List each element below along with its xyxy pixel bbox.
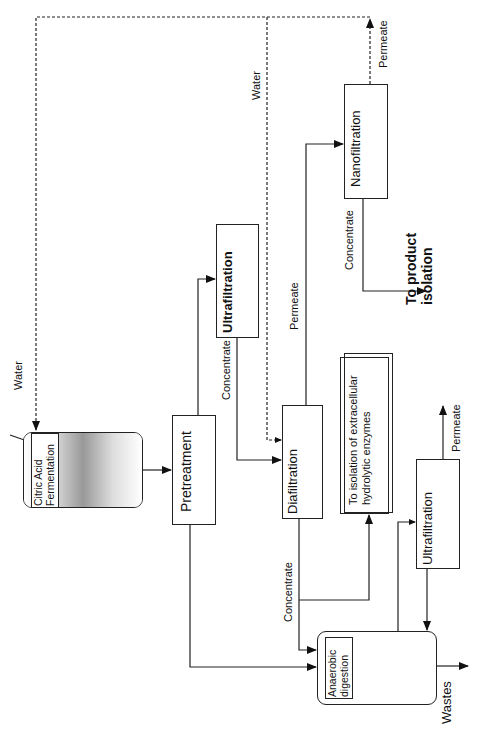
permeate-label-dia: Permeate — [288, 282, 301, 330]
concentrate-label-dia: Concentrate — [282, 562, 295, 622]
nanofiltration-label: Nanofiltration — [349, 110, 364, 187]
permeate-label-uf2: Permeate — [450, 404, 463, 452]
water-label-1: Water — [12, 361, 25, 390]
water-label-2: Water — [250, 71, 263, 100]
concentrate-label-uf1: Concentrate — [220, 340, 233, 400]
wastes-label: Wastes — [440, 681, 455, 724]
product-isolation-label: To product isolation — [403, 233, 435, 305]
fermentation-label: Citric Acid Fermentation — [32, 444, 56, 506]
permeate-label-nf: Permeate — [377, 20, 390, 68]
enzymes-label: To isolation of extracellular hydrolytic… — [347, 375, 372, 505]
water-recycle-line — [36, 17, 370, 430]
anaerobic-label: Anaerobic digestion — [326, 650, 350, 697]
diafiltration-label: Diafiltration — [286, 449, 301, 514]
ultrafiltration-2-label: Ultrafiltration — [421, 492, 436, 565]
fermentation-unit: Citric Acid Fermentation — [23, 432, 143, 508]
water-to-dia-line — [267, 17, 281, 440]
ultrafiltration-1-label: Ultrafiltration — [221, 251, 236, 333]
concentrate-label-nf: Concentrate — [343, 210, 356, 270]
process-flow-wires — [0, 0, 478, 729]
pretreatment-label: Pretreatment — [178, 431, 194, 512]
